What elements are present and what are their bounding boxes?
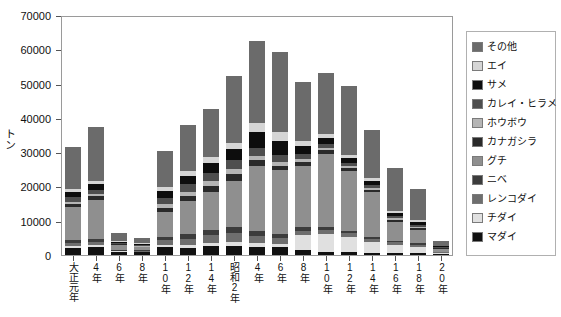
legend-label: ホウボウ: [487, 118, 527, 128]
bar-segment: [410, 230, 426, 244]
x-tick-label: 8年: [137, 262, 147, 283]
bar-segment: [203, 109, 219, 157]
x-tick-label: 8年: [298, 262, 308, 283]
x-tick-mark: [73, 256, 74, 261]
legend-label: グチ: [487, 156, 507, 166]
bar-stack: [249, 41, 265, 255]
bar-segment: [157, 247, 173, 255]
legend-item[interactable]: チダイ: [472, 208, 551, 227]
bar-column[interactable]: [157, 17, 173, 255]
x-tick-mark: [303, 256, 304, 261]
bar-column[interactable]: [88, 17, 104, 255]
legend-swatch-renkodai: [472, 194, 483, 204]
bar-column[interactable]: [249, 17, 265, 255]
stacked-bar-chart: トン 010000200003000040000500006000070000 …: [0, 0, 561, 317]
bar-stack: [65, 147, 81, 255]
x-tick-label: 12年: [344, 262, 354, 294]
bar-segment: [180, 201, 196, 234]
bar-segment: [295, 250, 311, 255]
bar-segment: [203, 246, 219, 255]
legend-item[interactable]: その他: [472, 37, 551, 56]
legend-item[interactable]: エイ: [472, 56, 551, 75]
bar-column[interactable]: [272, 17, 288, 255]
bar-column[interactable]: [134, 17, 150, 255]
bar-stack: [387, 168, 403, 255]
x-tick-label: 12年: [183, 262, 193, 294]
bar-segment: [341, 237, 357, 253]
bar-column[interactable]: [387, 17, 403, 255]
bar-column[interactable]: [295, 17, 311, 255]
legend-item[interactable]: マダイ: [472, 227, 551, 246]
y-tick-label: 40000: [20, 113, 51, 125]
bar-stack: [272, 52, 288, 255]
legend-swatch-houbou: [472, 118, 483, 128]
x-tick-mark: [142, 256, 143, 261]
bar-segment: [341, 252, 357, 255]
bar-segment: [364, 130, 380, 178]
bar-segment: [157, 151, 173, 187]
x-tick-mark: [96, 256, 97, 261]
legend-swatch-karei-hirame: [472, 99, 483, 109]
bar-segment: [364, 253, 380, 255]
legend-item[interactable]: グチ: [472, 151, 551, 170]
bar-segment: [65, 207, 81, 241]
bar-segment: [387, 245, 403, 253]
bar-column[interactable]: [433, 17, 449, 255]
legend-swatch-chidai: [472, 213, 483, 223]
bar-segment: [272, 52, 288, 132]
bar-stack: [433, 241, 449, 255]
x-tick-mark: [234, 256, 235, 261]
legend-item[interactable]: ホウボウ: [472, 113, 551, 132]
x-tick-label: 10年: [160, 262, 170, 294]
bar-stack: [410, 189, 426, 255]
bar-segment: [249, 41, 265, 123]
bar-segment: [364, 242, 380, 253]
x-tick-label: 6年: [275, 262, 285, 283]
y-tick-label: 70000: [20, 10, 51, 22]
bar-segment: [272, 132, 288, 140]
legend-item[interactable]: サメ: [472, 75, 551, 94]
x-tick-mark: [372, 256, 373, 261]
bar-column[interactable]: [226, 17, 242, 255]
bar-segment: [226, 181, 242, 227]
x-tick-mark: [257, 256, 258, 261]
bar-segment: [111, 233, 127, 241]
bar-column[interactable]: [364, 17, 380, 255]
bar-segment: [203, 173, 219, 181]
legend-item[interactable]: ニベ: [472, 170, 551, 189]
bar-column[interactable]: [111, 17, 127, 255]
legend-item[interactable]: カナガシラ: [472, 132, 551, 151]
bar-column[interactable]: [410, 17, 426, 255]
bar-segment: [295, 82, 311, 141]
bar-segment: [180, 125, 196, 171]
x-tick-label: 14年: [206, 262, 216, 294]
x-tick-mark: [395, 256, 396, 261]
bar-segment: [364, 192, 380, 237]
bar-segment: [180, 184, 196, 191]
bar-segment: [249, 132, 265, 148]
bar-segment: [249, 247, 265, 255]
bar-column[interactable]: [180, 17, 196, 255]
bar-segment: [387, 168, 403, 211]
legend-item[interactable]: レンコダイ: [472, 189, 551, 208]
bar-segment: [295, 166, 311, 228]
legend-label: マダイ: [487, 232, 517, 242]
legend-label: カレイ・ヒラメ: [487, 99, 557, 109]
bar-stack: [180, 125, 196, 255]
x-tick-label: 6年: [114, 262, 124, 283]
bar-segment: [226, 233, 242, 242]
bar-segment: [295, 235, 311, 249]
legend-label: ニベ: [487, 175, 507, 185]
bar-column[interactable]: [318, 17, 334, 255]
bar-column[interactable]: [65, 17, 81, 255]
bar-segment: [134, 252, 150, 255]
bar-segment: [318, 252, 334, 255]
bar-column[interactable]: [341, 17, 357, 255]
legend-item[interactable]: カレイ・ヒラメ: [472, 94, 551, 113]
legend-label: カナガシラ: [487, 137, 537, 147]
x-tick-label: 16年: [390, 262, 400, 294]
x-tick-mark: [326, 256, 327, 261]
x-tick-label: 20年: [436, 262, 446, 294]
bar-column[interactable]: [203, 17, 219, 255]
bar-segment: [295, 146, 311, 153]
